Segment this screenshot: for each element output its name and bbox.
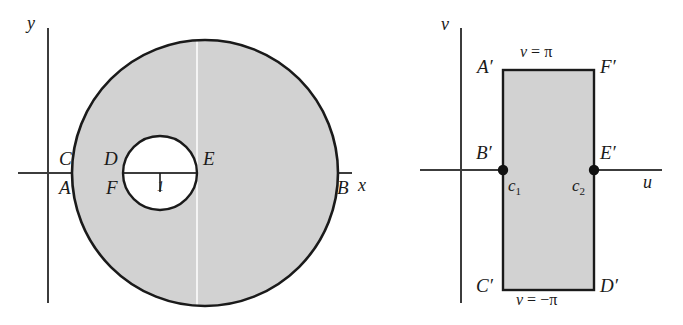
point-label-c2-base: c — [572, 176, 580, 195]
point-label-A: A — [59, 178, 71, 197]
bottom-edge-value: = −π — [523, 291, 557, 308]
point-label-C: C — [59, 149, 72, 168]
point-label-B: B — [337, 178, 349, 197]
radius-value-label: 1 — [157, 180, 164, 194]
point-label-C-prime: C′ — [476, 276, 493, 295]
top-edge-value: = π — [527, 43, 552, 60]
bottom-edge-equation: v = −π — [516, 292, 557, 308]
point-label-c1-base: c — [508, 176, 516, 195]
prime-mark: ′ — [614, 275, 618, 296]
point-marker-c2 — [589, 165, 599, 175]
point-label-E: E — [203, 149, 215, 168]
point-label-E-prime: E′ — [600, 143, 616, 162]
point-label-A-prime: A′ — [477, 57, 493, 76]
annulus-shaded-region — [72, 40, 338, 306]
prime-mark: ′ — [489, 56, 493, 77]
u-axis-label: u — [643, 173, 652, 191]
z-plane-panel: y x C A D F E B 1 — [0, 0, 400, 325]
point-label-c2: c2 — [572, 177, 585, 197]
prime-mark: ′ — [612, 142, 616, 163]
figure-canvas: y x C A D F E B 1 v u v = π — [0, 0, 683, 325]
top-edge-equation: v = π — [520, 44, 552, 60]
point-label-D: D — [104, 149, 118, 168]
x-axis-label: x — [358, 176, 366, 194]
point-label-A-prime-base: A — [477, 56, 489, 77]
prime-mark: ′ — [489, 275, 493, 296]
point-label-F: F — [106, 178, 118, 197]
point-label-B-prime: B′ — [476, 143, 492, 162]
prime-mark: ′ — [612, 56, 616, 77]
w-plane-panel: v u v = π v = −π A′ F′ B′ E′ C′ D′ c1 c2 — [400, 0, 683, 325]
point-label-c2-sub: 2 — [580, 185, 586, 197]
point-label-c1-sub: 1 — [516, 185, 522, 197]
point-label-C-prime-base: C — [476, 275, 489, 296]
point-label-B-prime-base: B — [476, 142, 488, 163]
y-axis-label: y — [27, 14, 35, 32]
prime-mark: ′ — [488, 142, 492, 163]
point-label-F-prime: F′ — [600, 57, 616, 76]
point-label-D-prime-base: D — [600, 275, 614, 296]
point-label-D-prime: D′ — [600, 276, 618, 295]
point-label-c1: c1 — [508, 177, 521, 197]
point-label-E-prime-base: E — [600, 142, 612, 163]
point-label-F-prime-base: F — [600, 56, 612, 77]
point-marker-c1 — [498, 165, 508, 175]
v-axis-label: v — [441, 15, 449, 33]
